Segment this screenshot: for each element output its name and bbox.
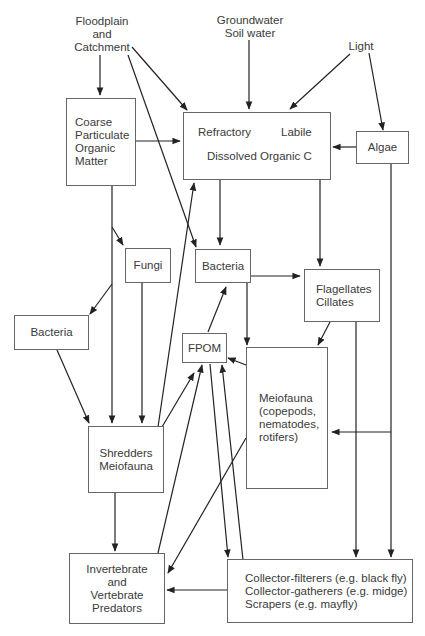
node-flagellates-ciliates: Flagellates Cillates <box>304 269 380 322</box>
meiofauna-line-2: (copepods, <box>259 405 327 418</box>
flagellates-line-2: Cillates <box>316 296 379 309</box>
collectors-line-1: Collector-filterers (e.g. black fly) <box>245 572 412 585</box>
node-fpom: FPOM <box>182 333 227 363</box>
node-shredders-meiofauna: Shredders Meiofauna <box>88 426 164 493</box>
groundwater-line-2: Soil water <box>212 27 288 40</box>
predators-line-3: Vertebrate <box>90 589 143 602</box>
floodplain-line-1: Floodplain <box>68 15 136 28</box>
source-groundwater: Groundwater Soil water <box>212 14 288 40</box>
source-light: Light <box>344 40 378 53</box>
source-floodplain-catchment: Floodplain and Catchment <box>68 15 136 54</box>
collectors-line-2: Collector-gatherers (e.g. midge) <box>245 585 412 598</box>
doc-refractory-label: Refractory <box>198 126 251 139</box>
collectors-line-3: Scrapers (e.g. mayfly) <box>245 598 412 611</box>
algae-label: Algae <box>368 141 397 154</box>
cpom-line-1: Coarse <box>75 116 135 129</box>
fungi-label: Fungi <box>134 259 163 272</box>
predators-line-4: Predators <box>92 602 142 615</box>
node-fungi: Fungi <box>125 248 171 283</box>
node-dissolved-organic-carbon: Refractory Labile Dissolved Organic C <box>183 112 331 180</box>
light-label: Light <box>344 40 378 53</box>
node-coarse-particulate-organic-matter: Coarse Particulate Organic Matter <box>66 98 136 186</box>
predators-line-2: and <box>107 576 126 589</box>
cpom-line-3: Organic <box>75 142 135 155</box>
node-invertebrate-vertebrate-predators: Invertebrate and Vertebrate Predators <box>69 553 165 624</box>
meiofauna-line-4: rotifers) <box>259 431 327 444</box>
shredders-line-1: Shredders <box>99 447 152 460</box>
bacteria-top-label: Bacteria <box>202 260 244 273</box>
predators-line-1: Invertebrate <box>86 563 147 576</box>
node-meiofauna: Meiofauna (copepods, nematodes, rotifers… <box>246 347 328 489</box>
meiofauna-line-3: nematodes, <box>259 418 327 431</box>
node-collectors-scrapers: Collector-filterers (e.g. black fly) Col… <box>227 559 413 623</box>
fpom-label: FPOM <box>188 342 221 355</box>
flagellates-line-1: Flagellates <box>316 283 379 296</box>
cpom-line-4: Matter <box>75 155 135 168</box>
node-algae: Algae <box>356 131 409 164</box>
doc-title: Dissolved Organic C <box>207 150 312 163</box>
doc-labile-label: Labile <box>281 126 312 139</box>
node-bacteria-left: Bacteria <box>14 315 89 350</box>
node-bacteria-top: Bacteria <box>195 249 251 283</box>
cpom-line-2: Particulate <box>75 129 135 142</box>
meiofauna-line-1: Meiofauna <box>259 392 327 405</box>
groundwater-line-1: Groundwater <box>212 14 288 27</box>
floodplain-line-3: Catchment <box>68 41 136 54</box>
floodplain-line-2: and <box>68 28 136 41</box>
bacteria-left-label: Bacteria <box>30 326 72 339</box>
shredders-line-2: Meiofauna <box>99 460 153 473</box>
